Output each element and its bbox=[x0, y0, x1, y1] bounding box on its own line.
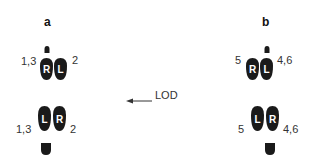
svg-text:R: R bbox=[249, 64, 257, 75]
footprint-right-icon: R bbox=[40, 58, 53, 80]
footprint-left-icon: L bbox=[38, 106, 51, 131]
svg-text:L: L bbox=[263, 64, 269, 75]
heel-icon bbox=[264, 39, 270, 57]
svg-text:R: R bbox=[269, 114, 277, 125]
svg-text:L: L bbox=[41, 114, 47, 125]
svg-text:L: L bbox=[254, 114, 260, 125]
left-arrow-icon bbox=[126, 91, 152, 109]
footprint-left-icon: L bbox=[251, 106, 264, 131]
svg-text:R: R bbox=[43, 64, 51, 75]
lod-label: LOD bbox=[155, 90, 178, 101]
panel-label-b: b bbox=[262, 16, 269, 28]
step-number-left: 5 bbox=[238, 124, 244, 135]
footprint-left-icon: L bbox=[260, 58, 273, 80]
step-number-right: 4,6 bbox=[283, 124, 298, 135]
heel-icon bbox=[41, 141, 51, 159]
svg-text:L: L bbox=[57, 64, 63, 75]
heel-icon bbox=[265, 141, 275, 159]
footprint-right-icon: R bbox=[246, 58, 259, 80]
heel-icon bbox=[44, 39, 50, 57]
footprint-right-icon: R bbox=[266, 106, 279, 131]
panel-label-a: a bbox=[44, 16, 51, 28]
step-number-left: 1,3 bbox=[21, 56, 36, 67]
step-number-left: 5 bbox=[235, 55, 241, 66]
step-number-left: 1,3 bbox=[16, 124, 31, 135]
step-number-right: 2 bbox=[72, 55, 78, 66]
footprint-left-icon: L bbox=[54, 58, 67, 80]
step-number-right: 2 bbox=[70, 124, 76, 135]
step-number-right: 4,6 bbox=[277, 55, 292, 66]
svg-text:R: R bbox=[56, 114, 64, 125]
footprint-right-icon: R bbox=[53, 106, 66, 131]
